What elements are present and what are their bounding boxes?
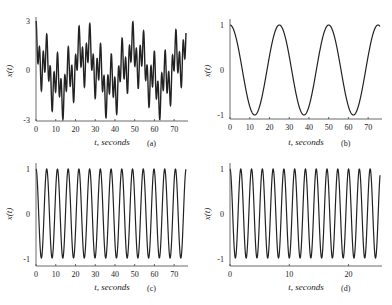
y-axis-label: x(t) [202,65,212,79]
panel-b: 1 0 -1 010203040506070 x(t) t, seconds (… [202,19,382,148]
x-tick: 10 [52,125,60,134]
x-axis-label: t, seconds [94,137,130,147]
y-tick: 0 [26,66,30,75]
x-axis-label: t, seconds [288,137,324,147]
x-tick: 50 [131,125,139,134]
signal-line [36,169,186,258]
y-tick: 0 [220,210,224,219]
x-tick: 70 [170,270,178,279]
x-tick: 50 [131,270,139,279]
panel-label: (d) [341,284,351,293]
panel-label: (a) [147,139,156,148]
x-tick: 70 [364,123,372,132]
x-tick: 40 [111,270,119,279]
x-tick: 60 [150,270,158,279]
x-tick: 10 [52,270,60,279]
x-tick: 40 [111,125,119,134]
x-tick: 10 [246,123,254,132]
x-tick: 20 [265,123,273,132]
y-tick: 0 [26,210,30,219]
x-tick: 30 [285,123,293,132]
x-tick: 0 [34,125,38,134]
x-tick: 60 [150,125,158,134]
x-tick: 40 [305,123,313,132]
y-tick: 1 [220,165,224,174]
signal-line [36,21,186,119]
y-tick: -3 [23,116,30,125]
y-tick: 1 [26,165,30,174]
x-tick: 0 [228,270,232,279]
x-tick: 0 [228,123,232,132]
x-axis-label: t, seconds [288,282,324,292]
x-axis-label: t, seconds [94,282,130,292]
y-tick: 1 [220,21,224,30]
y-tick: -1 [23,255,30,264]
x-tick: 50 [325,123,333,132]
figure: 3 0 -3 010203040506070 x(t) t, seconds (… [0,0,392,305]
panel-label: (b) [341,139,351,148]
panel-a: 3 0 -3 010203040506070 x(t) t, seconds (… [4,17,188,148]
y-tick: 0 [220,66,224,75]
y-axis-label: x(t) [202,208,212,222]
signal-line [230,25,380,115]
x-tick: 20 [71,125,79,134]
y-tick: -1 [217,255,224,264]
x-tick: 30 [91,270,99,279]
signal-line [230,169,380,258]
x-tick: 30 [91,125,99,134]
x-tick: 60 [344,123,352,132]
y-axis-label: x(t) [4,208,14,222]
y-tick: -1 [217,111,224,120]
x-tick: 70 [170,125,178,134]
panel-d: 1 0 -1 01020 x(t) t, seconds (d) [202,163,382,293]
x-tick: 20 [71,270,79,279]
panel-c: 1 0 -1 010203040506070 x(t) t, seconds (… [4,163,188,293]
x-tick: 20 [345,270,353,279]
x-tick: 0 [34,270,38,279]
panel-label: (c) [147,284,156,293]
y-axis-label: x(t) [4,65,14,79]
x-tick: 10 [285,270,293,279]
y-tick: 3 [26,17,30,26]
